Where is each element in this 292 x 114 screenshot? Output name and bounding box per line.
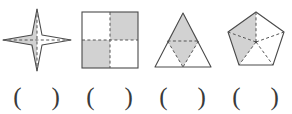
- answer-blank-1[interactable]: [36, 96, 37, 97]
- answer-cell-four-pointed-star[interactable]: ( ): [0, 78, 73, 114]
- paren-close-3: ): [198, 84, 206, 109]
- paren-open-2: (: [86, 84, 94, 109]
- figure-triangle-rhombus: [146, 0, 219, 80]
- pentagon-radius-lower-right-dashed: [256, 42, 273, 65]
- answer-row: ( ) ( ) ( ) ( ): [0, 78, 292, 114]
- answer-cell-triangle-rhombus[interactable]: ( ): [146, 78, 219, 114]
- answer-blank-2[interactable]: [109, 96, 110, 97]
- figure-four-pointed-star: [0, 0, 73, 80]
- pentagon-radius-upper-right-dashed: [256, 32, 284, 42]
- paren-open-4: (: [232, 84, 240, 109]
- paren-close-4: ): [271, 84, 279, 109]
- pentagon-sectors-svg: [224, 9, 288, 71]
- answer-blank-4[interactable]: [255, 96, 256, 97]
- four-pointed-star-svg: [1, 7, 73, 73]
- checkerboard-square-svg: [80, 10, 140, 70]
- square-quadrant-bottom-left-shaded: [82, 40, 110, 68]
- worksheet-page: ( ) ( ) ( ) ( ): [0, 0, 292, 114]
- paren-open-3: (: [159, 84, 167, 109]
- answer-cell-checkerboard-square[interactable]: ( ): [73, 78, 146, 114]
- figure-checkerboard-square: [73, 0, 146, 80]
- figure-row: [0, 0, 292, 80]
- answer-blank-3[interactable]: [182, 96, 183, 97]
- answer-cell-pentagon-sectors[interactable]: ( ): [219, 78, 292, 114]
- figure-pentagon-sectors: [219, 0, 292, 80]
- paren-open-1: (: [13, 84, 21, 109]
- paren-close-2: ): [125, 84, 133, 109]
- square-quadrant-top-right-shaded: [110, 12, 138, 40]
- triangle-shaded-rhombus: [167, 13, 198, 67]
- triangle-rhombus-svg: [152, 10, 214, 70]
- pentagon-center-point: [254, 41, 256, 43]
- paren-close-1: ): [52, 84, 60, 109]
